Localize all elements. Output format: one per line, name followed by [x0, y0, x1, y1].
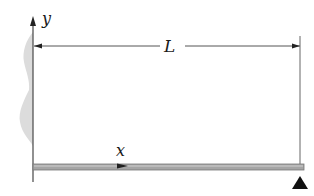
x-axis-label: x	[116, 141, 125, 160]
beam	[33, 164, 304, 170]
length-label: L	[163, 36, 175, 56]
dimension-arrow-right-icon	[292, 44, 300, 49]
y-axis-label: y	[41, 9, 52, 28]
wall-shade	[20, 32, 33, 146]
dimension-arrow-left-icon	[34, 44, 42, 49]
y-axis-arrow-icon	[30, 16, 36, 26]
support-triangle-icon	[292, 176, 308, 189]
beam-diagram: y L x	[0, 0, 314, 196]
